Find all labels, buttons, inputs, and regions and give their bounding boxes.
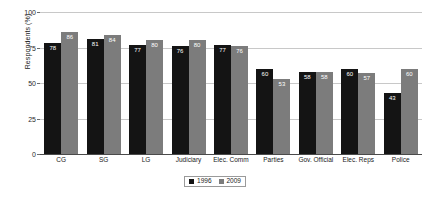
plot-area: 0255075100 78868184778076807776605358586… (40, 12, 422, 154)
x-axis-label-gov-official: Gov. Official (295, 156, 337, 163)
bar-group: 5858 (295, 12, 337, 154)
bar-value-label: 84 (104, 37, 121, 43)
bar-value-label: 57 (358, 75, 375, 81)
bar-chart: Respondents (%) 0255075100 7886818477807… (0, 0, 430, 199)
bar-value-label: 80 (189, 42, 206, 48)
bar[interactable]: 53 (273, 79, 290, 154)
y-tick-label-25: 25 (28, 115, 36, 122)
bar-group: 7780 (125, 12, 167, 154)
bar-value-label: 43 (384, 95, 401, 101)
legend-label: 1996 (197, 178, 211, 185)
bar[interactable]: 81 (87, 39, 104, 154)
legend-swatch-icon (219, 179, 224, 184)
x-axis-label-police: Police (380, 156, 422, 163)
bar[interactable]: 57 (358, 73, 375, 154)
legend-item-2009[interactable]: 2009 (219, 178, 241, 185)
bar-group: 7886 (40, 12, 82, 154)
x-axis-category-labels: CGSGLGJudiciaryElec. CommPartiesGov. Off… (40, 156, 422, 163)
bar-groups: 788681847780768077766053585860574360 (40, 12, 422, 154)
bar[interactable]: 58 (299, 72, 316, 154)
x-axis-label-elec-reps: Elec. Reps (337, 156, 379, 163)
legend-box: 19962009 (184, 176, 246, 187)
y-tick-label-75: 75 (28, 44, 36, 51)
bottom-edge-artifact (0, 193, 430, 199)
bar[interactable]: 60 (401, 69, 418, 154)
bar[interactable]: 80 (189, 40, 206, 154)
bar-value-label: 81 (87, 41, 104, 47)
y-tick-label-100: 100 (24, 9, 36, 16)
y-tick-mark-0 (37, 154, 40, 155)
bar[interactable]: 84 (104, 35, 121, 154)
bar[interactable]: 76 (172, 46, 189, 154)
legend-swatch-icon (189, 179, 194, 184)
bar-value-label: 77 (129, 47, 146, 53)
x-axis-label-judiciary: Judiciary (167, 156, 209, 163)
legend-item-1996[interactable]: 1996 (189, 178, 211, 185)
legend: 19962009 (0, 176, 430, 187)
x-axis-label-sg: SG (82, 156, 124, 163)
bar[interactable]: 80 (146, 40, 163, 154)
x-axis-line: 0 (40, 154, 422, 155)
bar-group: 8184 (82, 12, 124, 154)
bar[interactable]: 77 (129, 45, 146, 154)
bar-value-label: 86 (61, 34, 78, 40)
bar-group: 6053 (252, 12, 294, 154)
bar-value-label: 77 (214, 47, 231, 53)
bar-value-label: 60 (256, 71, 273, 77)
bar-value-label: 58 (316, 74, 333, 80)
bar[interactable]: 58 (316, 72, 333, 154)
bar[interactable]: 43 (384, 93, 401, 154)
bar-group: 7776 (210, 12, 252, 154)
bar-value-label: 58 (299, 74, 316, 80)
bar-group: 4360 (380, 12, 422, 154)
bar[interactable]: 76 (231, 46, 248, 154)
bar[interactable]: 78 (44, 43, 61, 154)
x-axis-label-cg: CG (40, 156, 82, 163)
bar[interactable]: 60 (341, 69, 358, 154)
legend-label: 2009 (227, 178, 241, 185)
bar-value-label: 78 (44, 45, 61, 51)
bar[interactable]: 60 (256, 69, 273, 154)
bar-value-label: 76 (172, 48, 189, 54)
x-axis-label-lg: LG (125, 156, 167, 163)
bar-value-label: 60 (341, 71, 358, 77)
y-tick-label-50: 50 (28, 80, 36, 87)
bar-value-label: 60 (401, 71, 418, 77)
x-axis-label-elec-comm: Elec. Comm (210, 156, 252, 163)
bar-value-label: 80 (146, 42, 163, 48)
bar-group: 7680 (167, 12, 209, 154)
bar-group: 6057 (337, 12, 379, 154)
bar[interactable]: 86 (61, 32, 78, 154)
y-tick-label-0: 0 (32, 151, 36, 158)
bar-value-label: 76 (231, 48, 248, 54)
bar-value-label: 53 (273, 81, 290, 87)
x-axis-label-parties: Parties (252, 156, 294, 163)
bar[interactable]: 77 (214, 45, 231, 154)
